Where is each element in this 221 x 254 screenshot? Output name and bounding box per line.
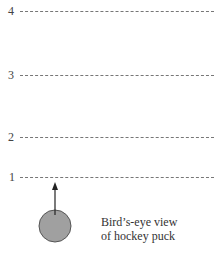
caption-line-1: Bird’s-eye view (101, 215, 177, 229)
puck-caption: Bird’s-eye view of hockey puck (101, 215, 177, 243)
arrowhead-icon (52, 182, 58, 190)
caption-line-2: of hockey puck (101, 229, 177, 243)
